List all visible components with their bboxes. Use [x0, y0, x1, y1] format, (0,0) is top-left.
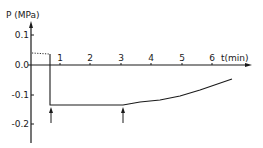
x-tick-label: 5 — [179, 53, 185, 63]
x-tick-label: 4 — [148, 53, 154, 63]
y-axis-label: P (MPa) — [6, 10, 40, 20]
pressure-chart: P (MPa) t(min) 0.1 0.0 -0.1 -0.2 1 2 3 4… — [0, 0, 263, 148]
x-axis-label: t(min) — [221, 53, 249, 63]
arrow-up-icon — [121, 107, 125, 123]
x-tick-label: 3 — [118, 53, 124, 63]
y-tick-label: -0.2 — [11, 119, 29, 129]
arrow-up-icon — [49, 107, 53, 123]
y-tick-label: -0.1 — [11, 90, 29, 100]
x-tick-label: 1 — [57, 53, 63, 63]
x-tick-label: 6 — [209, 53, 215, 63]
x-tick-label: 2 — [87, 53, 93, 63]
y-tick-label: 0.1 — [15, 30, 29, 40]
pressure-line — [50, 54, 232, 105]
y-tick-label: 0.0 — [15, 60, 30, 70]
y-axis-arrow-icon — [29, 21, 33, 28]
x-axis-arrow-icon — [245, 63, 252, 67]
pressure-dotted-segment — [32, 53, 49, 54]
